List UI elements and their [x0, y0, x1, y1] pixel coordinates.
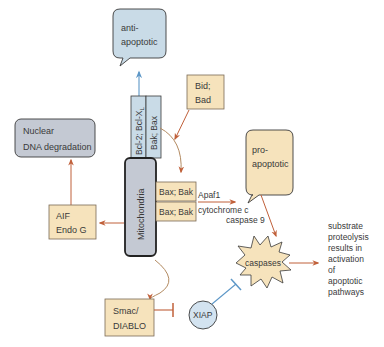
bcl2-bar: Bcl-2; Bcl-XL	[131, 96, 146, 158]
bid-bad-box: Bid; Bad	[187, 75, 224, 109]
cytochrome-c-label: cytochrome c	[198, 205, 249, 215]
svg-text:proteolysis: proteolysis	[328, 232, 369, 242]
svg-text:substrate: substrate	[328, 221, 363, 231]
bak-bax-bar: Bak; Bax	[146, 96, 161, 158]
smac-line1: Smac/	[113, 306, 139, 316]
xiap-label: XIAP	[193, 310, 213, 320]
svg-text:of: of	[328, 265, 336, 275]
caspases-label: caspases	[245, 258, 281, 268]
inhibit-bar-xiap	[231, 279, 241, 290]
outcome-text: substrate proteolysis results in activat…	[328, 221, 369, 297]
nuclear-line1: Nuclear	[23, 126, 54, 136]
mitochondria: Mitochondria	[125, 158, 156, 256]
pro-apoptotic-line1: pro-	[252, 145, 268, 155]
aif-line1: AIF	[56, 211, 71, 221]
caspases-starburst: caspases	[236, 236, 291, 288]
bid-bad-line1: Bid;	[195, 81, 211, 91]
apaf1-label: Apaf1	[198, 190, 220, 200]
xiap-node: XIAP	[189, 301, 217, 329]
svg-text:activation: activation	[328, 254, 364, 264]
arrow-curve-to-bax	[160, 128, 181, 172]
nuclear-dna-box: Nuclear DNA degradation	[15, 119, 95, 157]
bcl2-label: Bcl-2; Bcl-XL	[134, 107, 146, 155]
aif-endo-g-box: AIF Endo G	[49, 205, 96, 239]
bax-bak-2-label: Bax; Bak	[159, 207, 194, 217]
arrow-mito-to-smac	[150, 260, 169, 299]
caspase-9-label: caspase 9	[226, 215, 265, 225]
svg-text:apoptotic: apoptotic	[328, 276, 363, 286]
bax-bak-box-2: Bax; Bak	[156, 202, 196, 221]
nuclear-line2: DNA degradation	[23, 142, 92, 152]
bid-bad-line2: Bad	[195, 95, 211, 105]
smac-line2: DIABLO	[113, 321, 146, 331]
pro-apoptotic-line2: apoptotic	[252, 159, 289, 169]
anti-apoptotic-line1: anti-	[121, 23, 139, 33]
aif-line2: Endo G	[56, 225, 87, 235]
arrow-bid-bad	[175, 110, 189, 139]
bax-bak-1-label: Bax; Bak	[159, 187, 194, 197]
anti-apoptotic-bubble: anti- apoptotic	[113, 9, 166, 66]
mitochondria-label: Mitochondria	[136, 188, 146, 240]
smac-diablo-box: Smac/ DIABLO	[105, 299, 154, 336]
anti-apoptotic-line2: apoptotic	[121, 37, 158, 47]
inhibit-xiap-caspases	[212, 284, 236, 304]
bax-bak-box-1: Bax; Bak	[156, 182, 196, 201]
svg-text:results in: results in	[328, 243, 362, 253]
bak-bax-label: Bak; Bax	[149, 115, 159, 150]
apoptosis-diagram: anti- apoptotic Bcl-2; Bcl-XL Bak; Bax B…	[0, 0, 384, 347]
svg-text:pathways: pathways	[328, 287, 364, 297]
pro-apoptotic-bubble: pro- apoptotic	[246, 130, 293, 203]
